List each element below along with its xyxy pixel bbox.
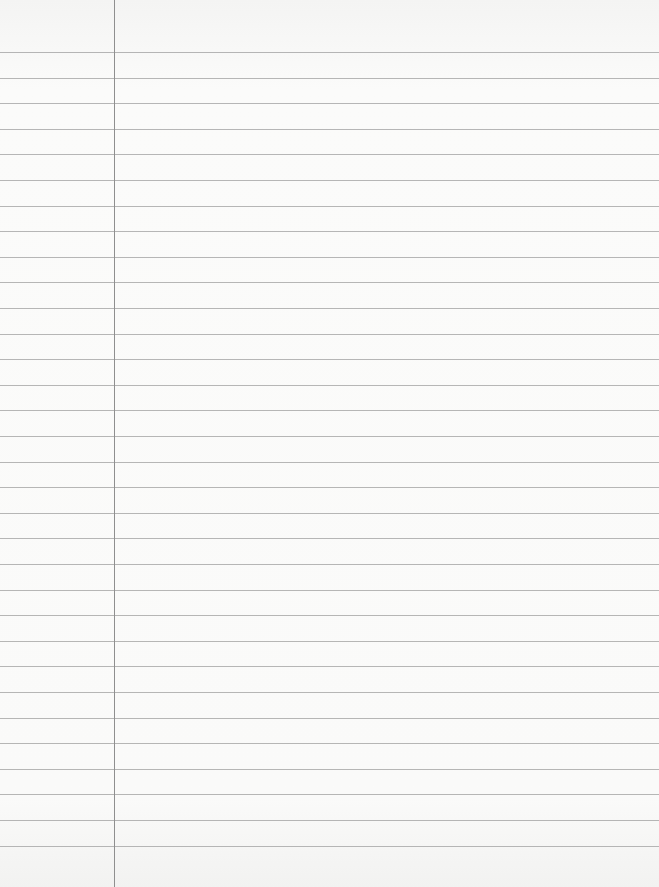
ruled-line: [0, 334, 659, 335]
ruled-line: [0, 769, 659, 770]
ruled-line: [0, 820, 659, 821]
ruled-line: [0, 692, 659, 693]
ruled-line: [0, 308, 659, 309]
ruled-line: [0, 794, 659, 795]
ruled-line: [0, 180, 659, 181]
ruled-line: [0, 52, 659, 53]
ruled-line: [0, 846, 659, 847]
ruled-line: [0, 487, 659, 488]
ruled-line: [0, 718, 659, 719]
ruled-line: [0, 359, 659, 360]
ruled-line: [0, 103, 659, 104]
ruled-line: [0, 538, 659, 539]
ruled-line: [0, 666, 659, 667]
ruled-line: [0, 436, 659, 437]
ruled-line: [0, 231, 659, 232]
ruled-line: [0, 564, 659, 565]
ruled-line: [0, 410, 659, 411]
ruled-line: [0, 257, 659, 258]
ruled-line: [0, 129, 659, 130]
ruled-line: [0, 78, 659, 79]
lined-paper: [0, 0, 659, 887]
ruled-line: [0, 154, 659, 155]
ruled-line: [0, 641, 659, 642]
ruled-line: [0, 615, 659, 616]
margin-line: [114, 0, 115, 887]
ruled-line: [0, 513, 659, 514]
ruled-line: [0, 206, 659, 207]
ruled-line: [0, 385, 659, 386]
ruled-line: [0, 462, 659, 463]
ruled-line: [0, 590, 659, 591]
ruled-line: [0, 743, 659, 744]
ruled-line: [0, 282, 659, 283]
